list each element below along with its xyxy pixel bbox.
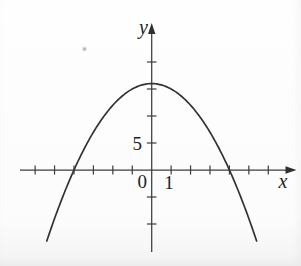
figure-canvas: y x 0 1 5 (0, 0, 301, 266)
origin-label: 0 (138, 171, 148, 192)
y-tick-label-5: 5 (133, 133, 143, 154)
y-axis (148, 23, 155, 252)
x-tick-label-1: 1 (164, 172, 174, 193)
x-axis-label: x (278, 170, 288, 192)
parabola-figure: y x 0 1 5 (0, 0, 301, 266)
artifact-speck (82, 46, 87, 51)
y-axis-label: y (137, 16, 148, 39)
x-axis (20, 166, 297, 173)
y-axis-arrowhead (148, 23, 155, 34)
